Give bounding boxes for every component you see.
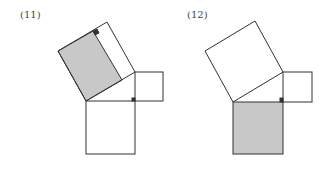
pythagoras-diagrams — [0, 0, 331, 169]
right-angle-marker — [132, 98, 135, 101]
figure-12 — [205, 21, 312, 154]
hypotenuse-square — [205, 21, 283, 102]
shaded-rectangle — [58, 31, 122, 101]
small-square — [135, 72, 163, 101]
bottom-square — [86, 101, 135, 154]
figure-11 — [58, 22, 163, 154]
right-angle-marker — [280, 98, 283, 102]
small-square — [283, 72, 312, 102]
shaded-bottom-square — [233, 102, 283, 154]
